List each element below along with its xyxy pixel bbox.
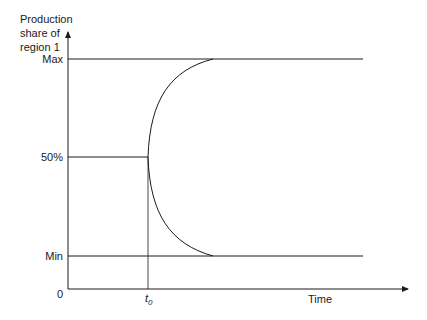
chart: Production share of region 1 Max 50% Min…: [0, 0, 427, 320]
y-axis-label-line1: Production: [20, 13, 73, 25]
y-axis-label-line3: region 1: [20, 41, 60, 53]
y-tick-zero: 0: [57, 288, 63, 300]
y-tick-min: Min: [45, 250, 63, 262]
x-axis-label: Time: [308, 293, 332, 305]
y-tick-max: Max: [42, 53, 63, 65]
upper-branch-curve: [148, 59, 213, 157]
y-axis-label-line2: share of: [20, 27, 61, 39]
lower-branch-curve: [148, 157, 213, 256]
y-tick-50: 50%: [41, 151, 63, 163]
x-tick-t0: t0: [145, 292, 153, 307]
